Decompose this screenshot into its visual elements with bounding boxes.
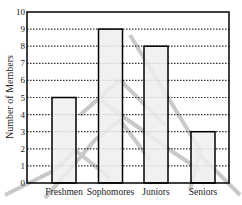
x-category-label: Seniors: [189, 187, 218, 197]
y-tick-label: 9: [21, 24, 26, 34]
y-axis-ticks: 012345678910: [16, 7, 26, 188]
x-category-label: Sophomores: [87, 187, 135, 197]
y-tick-label: 5: [21, 93, 26, 103]
y-tick-label: 10: [16, 7, 26, 17]
y-tick-label: 1: [21, 161, 26, 171]
y-tick-label: 4: [21, 110, 26, 120]
x-axis-labels: FreshmenSophomoresJuniorsSeniors: [45, 187, 217, 197]
y-tick-label: 3: [21, 127, 26, 137]
bar-seniors: [191, 132, 215, 183]
y-axis-label: Number of Members: [4, 55, 15, 139]
bar-sophomores: [99, 29, 123, 183]
bar-juniors: [144, 46, 168, 183]
y-tick-label: 0: [21, 178, 26, 188]
x-category-label: Freshmen: [45, 187, 83, 197]
y-tick-label: 6: [21, 75, 26, 85]
bars: [52, 29, 215, 183]
y-tick-label: 2: [21, 144, 26, 154]
y-tick-label: 8: [21, 41, 26, 51]
bar-chart: 012345678910 FreshmenSophomoresJuniorsSe…: [0, 0, 242, 205]
x-category-label: Juniors: [142, 187, 170, 197]
bar-freshmen: [52, 98, 76, 184]
y-tick-label: 7: [21, 58, 26, 68]
